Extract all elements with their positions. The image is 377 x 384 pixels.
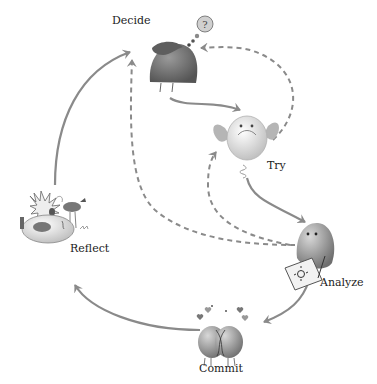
- commit-figure-icon: [197, 305, 249, 366]
- stage-label-commit: Commit: [199, 362, 243, 375]
- stage-label-analyze: Analyze: [320, 276, 364, 289]
- stage-label-reflect: Reflect: [70, 242, 109, 255]
- stage-label-try: Try: [267, 159, 286, 172]
- arrow-decide-to-try: [170, 98, 240, 110]
- decide-figure-icon: ?: [150, 16, 213, 92]
- arrow-commit-to-reflect: [75, 285, 200, 330]
- arrow-reflect-to-decide: [55, 52, 130, 185]
- svg-text:?: ?: [202, 19, 207, 30]
- cycle-diagram: ?: [0, 0, 377, 384]
- reflect-figure-icon: [20, 191, 88, 243]
- arrow-try-to-analyze: [247, 178, 305, 222]
- stage-label-decide: Decide: [112, 14, 151, 27]
- dashed-arrow-analyze-to-decide: [131, 60, 295, 245]
- diagram-canvas: ?: [0, 0, 377, 384]
